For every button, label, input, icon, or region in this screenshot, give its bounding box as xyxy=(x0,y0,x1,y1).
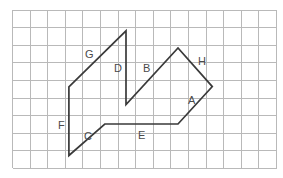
segment-label-d: D xyxy=(114,63,122,74)
segment-label-a: A xyxy=(188,95,195,106)
segment-label-g: G xyxy=(85,49,94,60)
segment-label-h: H xyxy=(198,56,206,67)
segment-label-e: E xyxy=(138,130,145,141)
segment-label-f: F xyxy=(58,120,65,131)
geometry-figure: GDBHAECF xyxy=(0,0,283,178)
segment-label-c: C xyxy=(84,131,92,142)
grid-lines xyxy=(13,10,277,168)
geometry-canvas xyxy=(0,0,283,178)
segment-label-b: B xyxy=(143,63,150,74)
